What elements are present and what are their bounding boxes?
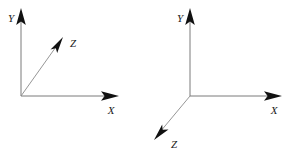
left-z-axis-label: Z: [70, 37, 77, 49]
right-coordinate-system: Y X Z: [154, 8, 282, 150]
coordinate-systems-figure: Y X Z Y X: [0, 0, 294, 157]
right-z-axis-line: [160, 96, 190, 132]
right-z-axis-arrowhead: [154, 125, 169, 140]
left-x-axis-label: X: [107, 104, 116, 116]
left-z-axis-arrowhead: [51, 37, 64, 53]
left-z-axis-line: [21, 44, 58, 96]
figure-canvas: Y X Z Y X: [0, 0, 294, 157]
left-coordinate-system: Y X Z: [8, 8, 119, 116]
right-x-axis-label: X: [270, 104, 279, 116]
right-y-axis-label: Y: [177, 12, 185, 24]
right-z-axis-label: Z: [171, 138, 178, 150]
left-y-axis-label: Y: [8, 12, 16, 24]
